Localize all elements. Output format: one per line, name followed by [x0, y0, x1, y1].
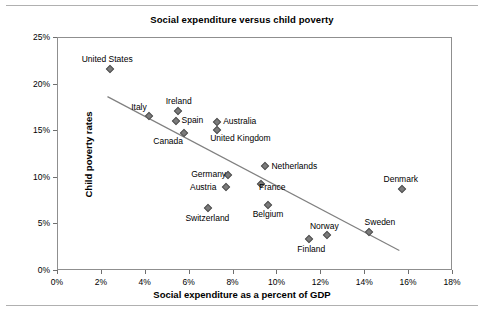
y-tick-label: 5% [10, 219, 50, 228]
x-tick-label: 8% [213, 278, 253, 287]
x-tick-label: 18% [432, 278, 472, 287]
x-tick-mark [408, 270, 409, 274]
x-axis-title: Social expenditure as a percent of GDP [0, 289, 484, 300]
data-point-label: Finland [297, 245, 325, 254]
chart-title: Social expenditure versus child poverty [0, 14, 484, 25]
x-tick-label: 0% [37, 278, 77, 287]
x-tick-label: 14% [344, 278, 384, 287]
x-tick-label: 6% [169, 278, 209, 287]
data-point-label: Austria [190, 183, 216, 192]
data-point[interactable] [171, 117, 179, 125]
x-tick-label: 16% [388, 278, 428, 287]
data-point-label: Switzerland [185, 214, 229, 223]
y-tick-mark [53, 37, 57, 38]
x-tick-mark [276, 270, 277, 274]
data-point-label: Denmark [384, 175, 418, 184]
top-divider [6, 5, 478, 6]
plot-area: 0%5%10%15%20%25% 0%2%4%6%8%10%12%14%16%1… [57, 37, 452, 270]
y-tick-label: 20% [10, 80, 50, 89]
y-tick-label: 10% [10, 173, 50, 182]
bottom-divider [6, 305, 478, 306]
data-point[interactable] [397, 185, 405, 193]
data-point-label: Canada [153, 137, 183, 146]
x-tick-label: 12% [300, 278, 340, 287]
data-point-label: Spain [182, 116, 204, 125]
x-tick-label: 10% [256, 278, 296, 287]
x-tick-mark [101, 270, 102, 274]
data-point[interactable] [204, 203, 212, 211]
x-tick-mark [57, 270, 58, 274]
data-point-label: Italy [131, 103, 147, 112]
data-point-label: Netherlands [271, 162, 317, 171]
data-point[interactable] [263, 201, 271, 209]
data-point[interactable] [364, 228, 372, 236]
data-point-label: United Kingdom [210, 134, 270, 143]
y-tick-label: 15% [10, 126, 50, 135]
data-point[interactable] [213, 118, 221, 126]
data-point-label: Belgium [253, 210, 284, 219]
data-point[interactable] [173, 106, 181, 114]
data-point[interactable] [145, 112, 153, 120]
x-tick-label: 4% [125, 278, 165, 287]
y-tick-label: 25% [10, 33, 50, 42]
x-tick-mark [189, 270, 190, 274]
y-tick-mark [53, 130, 57, 131]
y-tick-mark [53, 177, 57, 178]
data-point[interactable] [105, 64, 113, 72]
x-tick-mark [145, 270, 146, 274]
x-tick-mark [320, 270, 321, 274]
y-tick-mark [53, 84, 57, 85]
x-tick-mark [364, 270, 365, 274]
data-point-label: Germany [191, 170, 226, 179]
data-point-label: Australia [223, 117, 256, 126]
data-point[interactable] [222, 183, 230, 191]
data-point-label: Sweden [365, 218, 396, 227]
data-point[interactable] [323, 230, 331, 238]
chart-figure: Social expenditure versus child poverty … [0, 0, 484, 316]
y-axis-title: Child poverty rates [83, 85, 94, 225]
trend-line [57, 37, 452, 270]
x-tick-mark [452, 270, 453, 274]
y-tick-mark [53, 223, 57, 224]
data-point-label: Norway [310, 222, 339, 231]
data-point-label: United States [82, 55, 133, 64]
data-point[interactable] [305, 235, 313, 243]
x-tick-label: 2% [81, 278, 121, 287]
y-tick-label: 0% [10, 266, 50, 275]
data-point-label: France [259, 183, 285, 192]
data-point[interactable] [261, 161, 269, 169]
data-point-label: Ireland [166, 97, 192, 106]
x-tick-mark [233, 270, 234, 274]
